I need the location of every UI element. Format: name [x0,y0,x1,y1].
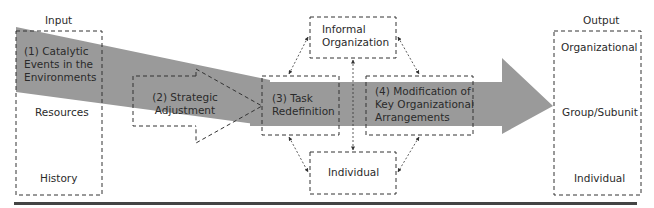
input-header: Input [45,14,72,27]
task-line1: (3) Task [272,92,313,105]
catalytic-line2: Events in the [24,58,93,71]
output-group: Group/Subunit [562,106,638,119]
individual-mid-label: Individual [328,166,379,179]
catalytic-line3: Environments [24,71,97,84]
output-header: Output [583,14,619,27]
task-line2: Redefinition [272,105,335,118]
bottom-rule [14,202,637,205]
modification-line1: (4) Modification of [375,85,471,98]
informal-line1: Informal [322,23,366,36]
modification-line2: Key Organizational [375,98,474,111]
informal-line2: Organization [322,36,389,49]
resources-label: Resources [35,106,89,119]
output-organizational: Organizational [561,41,637,54]
strategic-line2: Adjustment [150,104,220,117]
strategic-line1: (2) Strategic [150,91,220,104]
catalytic-line1: (1) Catalytic [24,45,88,58]
modification-line3: Arrangements [375,111,450,124]
history-label: History [40,172,77,185]
output-individual: Individual [574,172,625,185]
